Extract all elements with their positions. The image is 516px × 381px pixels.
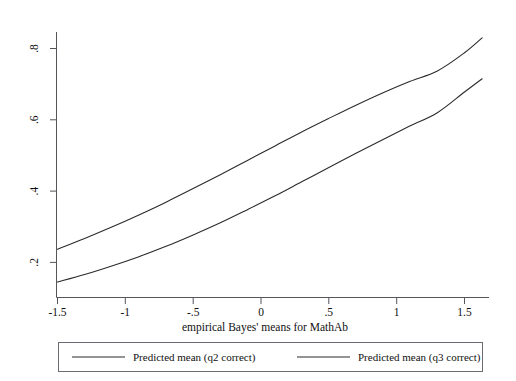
legend-label-q2: Predicted mean (q2 correct) — [133, 351, 256, 364]
x-tick-label: 1 — [394, 306, 400, 318]
series-line-q2-correct — [58, 38, 483, 249]
y-tick-label-02: .2 — [28, 258, 40, 267]
x-tick-label-group: -1.5 -1 -.5 0 .5 1 1.5 — [48, 306, 472, 318]
y-tick-group — [50, 49, 57, 263]
x-tick-label: .5 — [324, 306, 333, 318]
x-tick-group — [58, 298, 465, 305]
legend-label-q3: Predicted mean (q3 correct) — [358, 351, 481, 364]
chart-figure: .8 .6 .4 .2 -1.5 -1 -.5 0 .5 1 1.5 empir… — [0, 0, 516, 381]
y-tick-label-08: .8 — [28, 44, 40, 53]
x-axis-title: empirical Bayes' means for MathAb — [182, 321, 348, 334]
y-tick-label-06: .6 — [28, 115, 40, 124]
x-tick-label: 1.5 — [457, 306, 472, 318]
chart-canvas: .8 .6 .4 .2 -1.5 -1 -.5 0 .5 1 1.5 empir… — [0, 0, 516, 381]
y-tick-label-group: .8 .6 .4 .2 — [28, 44, 40, 267]
x-tick-label: -1.5 — [48, 306, 66, 318]
x-tick-label: -1 — [121, 306, 131, 318]
y-tick-label-04: .4 — [28, 187, 40, 196]
series-group — [58, 38, 483, 282]
x-tick-label: -.5 — [187, 306, 200, 318]
axis-group — [57, 32, 490, 298]
x-tick-label: 0 — [258, 306, 264, 318]
series-line-q3-correct — [58, 79, 483, 282]
legend: Predicted mean (q2 correct) Predicted me… — [59, 343, 483, 372]
